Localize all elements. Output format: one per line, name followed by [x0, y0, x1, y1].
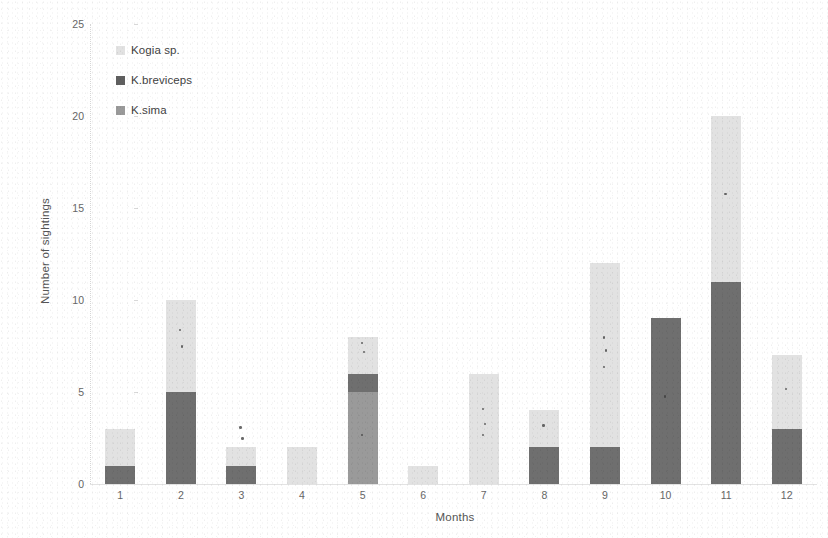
y-axis-tick-labels: 0510152025 [48, 0, 84, 538]
scan-speck [724, 193, 727, 196]
x-axis-tick-12: 12 [767, 489, 807, 501]
legend-swatch-k-sima [116, 106, 125, 115]
bar-month-12[interactable] [772, 24, 802, 484]
x-axis-tick-2: 2 [161, 489, 201, 501]
bar-month-10[interactable] [651, 24, 681, 484]
bar-segment-k-breviceps[interactable] [772, 429, 802, 484]
bar-segment-k-sima[interactable] [348, 392, 378, 484]
bar-month-6[interactable] [408, 24, 438, 484]
x-axis-tick-6: 6 [403, 489, 443, 501]
bar-segment-kogia-sp-[interactable] [408, 466, 438, 484]
legend-item-k-breviceps[interactable]: K.breviceps [116, 74, 192, 86]
legend-label: Kogia sp. [131, 44, 180, 56]
x-axis-tick-4: 4 [282, 489, 322, 501]
bar-segment-k-breviceps[interactable] [105, 466, 135, 484]
chart-legend: Kogia sp.K.brevicepsK.sima [116, 44, 192, 134]
plot-area [90, 24, 817, 484]
bar-month-7[interactable] [469, 24, 499, 484]
y-axis-tick-15: 15 [54, 202, 84, 214]
x-axis-tick-10: 10 [646, 489, 686, 501]
y-axis-tick-20: 20 [54, 110, 84, 122]
x-axis-tick-9: 9 [585, 489, 625, 501]
y-axis-tick-10: 10 [54, 294, 84, 306]
legend-swatch-kogia-sp [116, 46, 125, 55]
scan-speck [664, 395, 667, 398]
legend-item-kogia-sp-[interactable]: Kogia sp. [116, 44, 192, 56]
bar-segment-k-breviceps[interactable] [590, 447, 620, 484]
legend-item-k-sima[interactable]: K.sima [116, 104, 192, 116]
x-axis-tick-7: 7 [464, 489, 504, 501]
bar-month-3[interactable] [226, 24, 256, 484]
bar-segment-kogia-sp-[interactable] [226, 447, 256, 465]
scan-speck [239, 426, 242, 429]
bar-month-5[interactable] [348, 24, 378, 484]
x-axis-tick-5: 5 [343, 489, 383, 501]
y-axis-tick-5: 5 [54, 386, 84, 398]
bar-month-8[interactable] [529, 24, 559, 484]
x-axis-tick-11: 11 [706, 489, 746, 501]
bar-month-4[interactable] [287, 24, 317, 484]
bar-segment-kogia-sp-[interactable] [469, 374, 499, 484]
scan-speck [241, 437, 244, 440]
legend-label: K.breviceps [131, 74, 192, 86]
bar-segment-kogia-sp-[interactable] [287, 447, 317, 484]
y-axis-tick-25: 25 [54, 18, 84, 30]
legend-label: K.sima [131, 104, 167, 116]
bar-segment-k-breviceps[interactable] [651, 318, 681, 484]
legend-swatch-k-breviceps [116, 76, 125, 85]
x-axis-tick-1: 1 [100, 489, 140, 501]
bar-segment-kogia-sp-[interactable] [529, 410, 559, 447]
bar-month-11[interactable] [711, 24, 741, 484]
bar-segment-kogia-sp-[interactable] [711, 116, 741, 282]
x-axis-title: Months [90, 511, 820, 523]
sightings-stacked-bar-chart: Number of sightings 0510152025 123456789… [0, 0, 828, 538]
bar-segment-k-breviceps[interactable] [529, 447, 559, 484]
bar-segment-k-breviceps[interactable] [226, 466, 256, 484]
y-axis-tick-0: 0 [54, 478, 84, 490]
x-axis-line [90, 484, 817, 485]
bar-segment-kogia-sp-[interactable] [590, 263, 620, 447]
x-axis-tick-8: 8 [524, 489, 564, 501]
bar-segment-k-breviceps[interactable] [711, 282, 741, 484]
bar-segment-k-breviceps[interactable] [348, 374, 378, 392]
x-axis-tick-3: 3 [221, 489, 261, 501]
scan-speck [542, 424, 545, 427]
bar-segment-k-breviceps[interactable] [166, 392, 196, 484]
bar-month-9[interactable] [590, 24, 620, 484]
bar-segment-kogia-sp-[interactable] [772, 355, 802, 429]
bar-segment-kogia-sp-[interactable] [105, 429, 135, 466]
